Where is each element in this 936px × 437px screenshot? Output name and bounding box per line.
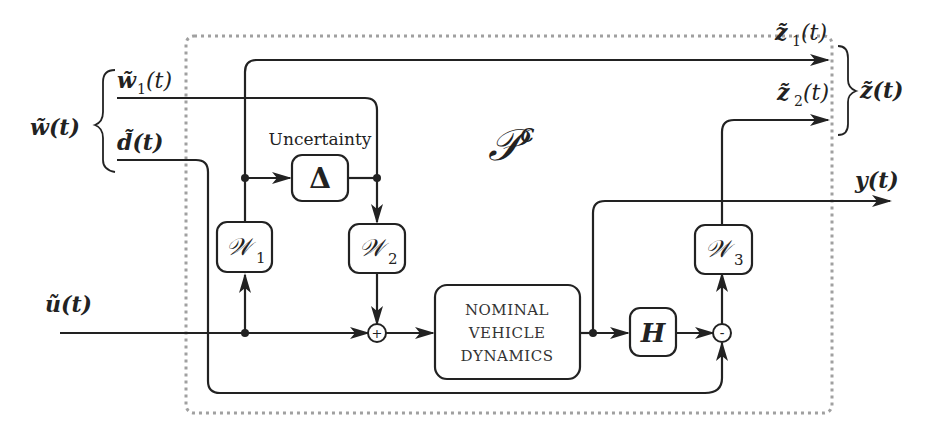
z2-signal: [722, 120, 828, 225]
h-symbol: H: [640, 318, 667, 348]
difference-junction: -: [713, 324, 731, 342]
w1-input-arg: (t): [146, 68, 172, 93]
junction-dot: [241, 174, 249, 182]
nominal-line-2: VEHICLE: [468, 324, 546, 342]
minus-sign: -: [720, 325, 725, 341]
nominal-line-1: NOMINAL: [465, 301, 549, 319]
junction-dot: [373, 174, 381, 182]
delta-block[interactable]: Δ: [292, 155, 348, 201]
w1-block[interactable]: 𝒲 1: [217, 222, 272, 272]
u-input-label: ũ(t): [45, 291, 92, 317]
z1-output-label: z̃: [774, 19, 788, 45]
left-brace-icon: [95, 70, 115, 172]
sum-junction: +: [368, 324, 386, 342]
nominal-line-3: DYNAMICS: [461, 347, 554, 365]
w1-input-label: w̃: [117, 67, 137, 93]
nominal-vehicle-dynamics-block[interactable]: NOMINAL VEHICLE DYNAMICS: [435, 285, 580, 379]
z2-output-arg: (t): [803, 80, 829, 105]
w1-input-subscript: 1: [137, 81, 146, 97]
w3-subscript: 3: [734, 251, 744, 269]
w1-subscript: 1: [256, 249, 266, 267]
plant-superscript: c: [520, 118, 535, 148]
w2-subscript: 2: [388, 250, 398, 268]
y-output-label: y(t): [854, 167, 899, 193]
z1-output-arg: (t): [801, 20, 827, 45]
w-input-group: w̃(t) w̃ 1 (t) d̃(t): [30, 67, 172, 172]
z-group-label: z̃(t): [859, 77, 903, 103]
block-diagram: 𝒫 c Uncertainty: [0, 0, 936, 437]
z-output-group: z̃ 1 (t) z̃ 2 (t) z̃(t): [774, 19, 903, 135]
right-brace-icon: [838, 46, 856, 135]
plant-label: 𝒫 c: [488, 118, 535, 170]
junction-dot: [589, 329, 597, 337]
uncertainty-label: Uncertainty: [269, 129, 372, 149]
w-group-label: w̃(t): [30, 114, 80, 140]
z1-output-subscript: 1: [792, 33, 801, 49]
h-block[interactable]: H: [630, 308, 676, 356]
z2-output-subscript: 2: [794, 93, 803, 109]
d-input-label: d̃(t): [117, 129, 163, 155]
w3-block[interactable]: 𝒲 3: [695, 225, 752, 274]
w2-block[interactable]: 𝒲 2: [349, 224, 405, 273]
z2-output-label: z̃: [776, 79, 790, 105]
d-signal: [117, 160, 722, 393]
plus-sign: +: [372, 326, 383, 341]
delta-symbol: Δ: [309, 162, 331, 195]
junction-dot: [241, 329, 249, 337]
